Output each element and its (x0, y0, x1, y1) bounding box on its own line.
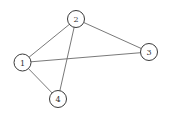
node-1: 1 (14, 54, 31, 71)
node-2: 2 (68, 11, 85, 28)
node-4: 4 (50, 91, 67, 108)
edge-2-3 (76, 19, 149, 52)
edge-1-3 (23, 52, 150, 63)
graph-nodes: 1234 (14, 11, 158, 108)
graph-edges (23, 19, 150, 99)
node-label: 3 (146, 48, 151, 57)
undirected-graph: 1234 (0, 0, 170, 117)
node-3: 3 (141, 44, 158, 61)
node-label: 1 (20, 59, 25, 68)
node-label: 4 (55, 95, 60, 104)
node-label: 2 (73, 15, 78, 24)
